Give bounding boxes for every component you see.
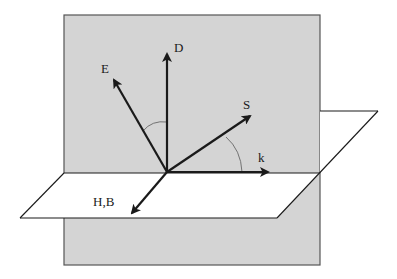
label-hb: H,B: [93, 194, 115, 209]
label-s: S: [243, 97, 250, 112]
label-d: D: [174, 40, 183, 55]
diagram-canvas: D E S k H,B: [0, 0, 397, 279]
vertical-plane: [64, 15, 320, 265]
label-e: E: [101, 61, 109, 76]
horizontal-plane-front: [20, 173, 320, 218]
label-k: k: [258, 150, 265, 165]
